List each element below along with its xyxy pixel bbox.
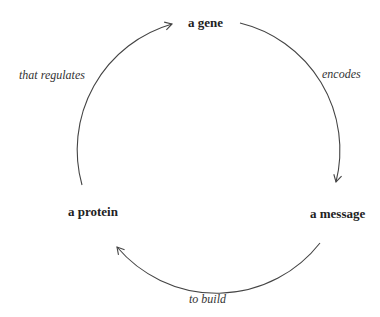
edge-label-encodes: encodes bbox=[322, 67, 361, 82]
node-protein: a protein bbox=[68, 204, 118, 220]
edge-label-to-build: to build bbox=[189, 292, 226, 307]
cycle-arrows bbox=[0, 0, 380, 317]
edge-label-that-regulates: that regulates bbox=[19, 68, 85, 83]
node-gene: a gene bbox=[188, 15, 223, 31]
node-message: a message bbox=[310, 206, 365, 222]
arrow-that-regulates bbox=[77, 24, 172, 185]
arrow-to-build bbox=[117, 243, 320, 293]
arrow-encodes bbox=[240, 23, 340, 182]
